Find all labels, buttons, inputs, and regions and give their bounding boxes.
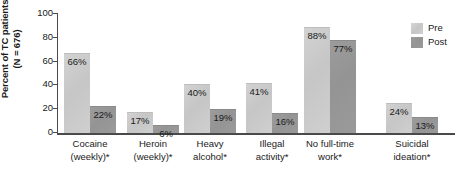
x-axis-line [57,133,455,135]
y-tick-label: 40 [27,79,53,89]
bar-value-label: 16% [272,116,298,127]
bar-value-label: 77% [330,43,356,54]
bar-pre: 17% [127,112,153,133]
y-tick-label: 100 [27,8,53,18]
bar-value-label: 13% [412,120,438,131]
y-tick-label: 80 [27,32,53,42]
bar-post: 13% [412,117,438,133]
category-label: Suicidalideation* [369,137,455,163]
legend-swatch-pre [411,23,423,34]
bar-post: 22% [90,106,116,133]
bar-value-label: 24% [386,106,412,117]
y-tick-label: 0 [27,127,53,137]
bar-pre: 66% [64,53,90,133]
bar-value-label: 41% [246,86,272,97]
category-label: No full-timework* [287,137,373,163]
bar-post: 19% [210,109,236,133]
bar-value-label: 22% [90,109,116,120]
bar-value-label: 17% [127,115,153,126]
bar-value-label: 40% [184,87,210,98]
bar-post: 16% [272,113,298,133]
legend-item-post[interactable]: Post [411,35,469,49]
legend-label: Pre [428,21,443,35]
y-axis-title-line-2: (N = 676) [11,0,23,109]
bar-value-label: 66% [64,56,90,67]
bar-group: 66%22% [64,13,116,133]
plot-area: 66%22%17%6%40%19%41%16%88%77%24%13% [58,13,455,133]
category-label-line: Suicidal [369,137,455,150]
bar-pre: 24% [386,103,412,133]
bar-group: 88%77% [304,13,356,133]
bar-group: 40%19% [184,13,236,133]
bar-pre: 41% [246,83,272,133]
bar-value-label: 19% [210,112,236,123]
bar-post: 77% [330,40,356,133]
bar-post: 6% [153,125,179,133]
y-tick-label: 60 [27,56,53,66]
legend-label: Post [428,35,447,49]
bar-value-label: 88% [304,30,330,41]
bar-chart: Percent of TC patients (N = 676) 1008060… [0,0,472,176]
category-label-line: work* [287,150,373,163]
category-label-line: ideation* [369,150,455,163]
bar-pre: 40% [184,84,210,133]
bar-group: 17%6% [127,13,179,133]
bar-pre: 88% [304,27,330,133]
category-label-line: No full-time [287,137,373,150]
legend: PrePost [411,21,469,49]
legend-swatch-post [411,37,423,48]
y-axis-title-line-1: Percent of TC patients [0,0,11,109]
legend-item-pre[interactable]: Pre [411,21,469,35]
y-tick-label: 20 [27,103,53,113]
bar-group: 41%16% [246,13,298,133]
